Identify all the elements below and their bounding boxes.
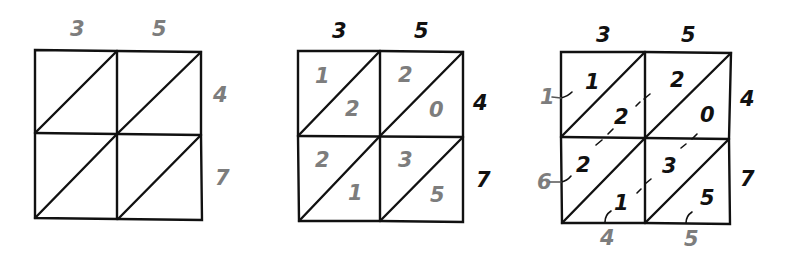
grid-2-top-digit: 5 (414, 19, 429, 43)
grid-1-diagonal (117, 52, 201, 134)
grid-2-cell-ones-digit: 0 (429, 98, 444, 122)
grid-1-diagonal (118, 135, 201, 219)
grid-3-cell-ones-digit: 1 (614, 191, 629, 215)
grid-2-cell-ones-digit: 2 (345, 97, 360, 121)
grid-2-right-digit: 4 (472, 91, 488, 115)
lattice-grid-step-2: 3 5 4 7 1 2 2 0 2 1 3 5 (298, 19, 491, 222)
grid-1-diagonal (35, 134, 117, 218)
grid-2-cell-tens-digit: 2 (315, 148, 330, 172)
grid-3-top-digit: 3 (596, 23, 611, 47)
grid-3-bottom-sum-digit: 4 (599, 226, 615, 250)
sum-path-tick (561, 92, 572, 98)
sum-connector (550, 97, 561, 182)
grid-3-diagonal (562, 138, 645, 223)
sum-path-tick (686, 212, 692, 223)
grid-1-top-digit: 3 (70, 17, 85, 41)
grid-3-diagonal (645, 139, 729, 223)
grid-2-diagonal (380, 52, 463, 136)
grid-3-right-digit: 7 (740, 167, 755, 191)
grid-2-diagonal (380, 137, 463, 221)
grid-1-right-digit: 7 (215, 166, 230, 190)
grid-2-cell-ones-digit: 5 (430, 183, 445, 207)
lattice-grid-step-3: 3 5 4 7 1 2 2 0 2 1 3 5 1 6 4 5 (537, 23, 755, 251)
sum-path-tick (605, 211, 611, 222)
grid-3-cell-tens-digit: 3 (662, 154, 677, 178)
grid-2-top-digit: 3 (332, 19, 347, 43)
grid-3-diagonal (561, 52, 645, 137)
grid-1-top-digit: 5 (152, 17, 167, 41)
grid-2-cell-ones-digit: 1 (348, 181, 363, 205)
grid-2-cell-tens-digit: 3 (398, 148, 413, 172)
grid-3-diagonal (645, 53, 731, 138)
grid-3-cell-ones-digit: 0 (700, 103, 715, 127)
grid-2-diagonal (299, 136, 380, 221)
grid-3-top-digit: 5 (681, 23, 696, 47)
lattice-multiplication-diagram: 3 5 4 7 3 5 4 7 1 2 2 0 2 1 3 5 3 5 (0, 0, 790, 256)
grid-3-bottom-sum-digit: 5 (684, 227, 699, 251)
lattice-grid-step-1: 3 5 4 7 (35, 17, 230, 220)
grid-3-cell-tens-digit: 1 (585, 70, 600, 94)
grid-2-right-digit: 7 (476, 168, 491, 192)
grid-2-cell-tens-digit: 1 (315, 64, 330, 88)
grid-1-diagonal (35, 51, 117, 133)
grid-1-right-digit: 4 (212, 83, 228, 107)
grid-2-cell-tens-digit: 2 (398, 63, 413, 87)
grid-2-diagonal (298, 51, 380, 136)
grid-3-cell-ones-digit: 5 (700, 186, 715, 210)
grid-3-cell-tens-digit: 2 (576, 153, 591, 177)
grid-3-right-digit: 4 (739, 87, 755, 111)
grid-3-cell-ones-digit: 2 (614, 105, 629, 129)
grid-3-cell-tens-digit: 2 (670, 68, 685, 92)
